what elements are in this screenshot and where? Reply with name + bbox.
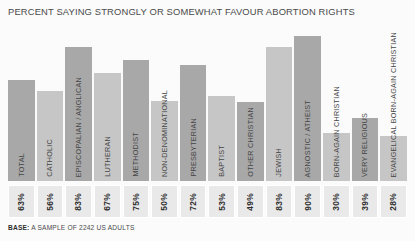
- bar-value-text: 83%: [74, 193, 82, 211]
- bar-value-box: 67%: [94, 185, 121, 218]
- bar[interactable]: [237, 102, 264, 181]
- bar-value-text: 53%: [218, 193, 226, 211]
- bar[interactable]: [123, 60, 150, 181]
- bar-column[interactable]: BAPTIST: [208, 20, 235, 181]
- bar[interactable]: [294, 36, 321, 181]
- bar-column[interactable]: NON-DENOMINATIONAL: [151, 20, 178, 181]
- bar-column[interactable]: TOTAL: [8, 20, 35, 181]
- bar-column[interactable]: EPISCOPALIAN / ANGLICAN: [65, 20, 92, 181]
- bar-value-box: 90%: [294, 185, 321, 218]
- bar-value-box: 63%: [8, 185, 35, 218]
- bar-column[interactable]: JEWISH: [266, 20, 293, 181]
- bar[interactable]: [37, 91, 64, 181]
- bar-value-box: 83%: [65, 185, 92, 218]
- bar[interactable]: [94, 73, 121, 181]
- bar-value-box: 56%: [37, 185, 64, 218]
- bar-column[interactable]: LUTHERAN: [94, 20, 121, 181]
- bar-value-text: 83%: [275, 193, 283, 211]
- bar-value-text: 50%: [160, 193, 168, 211]
- bar-value-box: 75%: [123, 185, 150, 218]
- bar[interactable]: [208, 96, 235, 181]
- bar-column[interactable]: EVANGELICAL BORN-AGAIN CHRISTIAN: [380, 20, 407, 181]
- bar-value-box: 49%: [237, 185, 264, 218]
- bar-value-text: 75%: [132, 193, 140, 211]
- bar[interactable]: [323, 133, 350, 181]
- bar-column[interactable]: PRESBYTERIAN: [180, 20, 207, 181]
- bar-value-text: 30%: [332, 193, 340, 211]
- base-label: BASE:: [8, 224, 30, 231]
- abortion-rights-bar-chart: PERCENT SAYING STRONGLY OR SOMEWHAT FAVO…: [0, 0, 415, 241]
- base-text: A SAMPLE OF 2242 US ADULTS: [30, 224, 135, 231]
- bar[interactable]: [180, 65, 207, 181]
- bar-column[interactable]: OTHER CHRISTIAN: [237, 20, 264, 181]
- bar[interactable]: [352, 118, 379, 181]
- value-label-row: 63%56%83%67%75%50%72%53%49%83%90%30%39%2…: [8, 185, 407, 218]
- bar[interactable]: [65, 47, 92, 181]
- bar[interactable]: [266, 47, 293, 181]
- bar-column[interactable]: AGNOSTIC / ATHEIST: [294, 20, 321, 181]
- bar-value-box: 28%: [380, 185, 407, 218]
- bar-column[interactable]: VERY RELIGIOUS: [352, 20, 379, 181]
- bar-value-box: 50%: [151, 185, 178, 218]
- bar-column[interactable]: METHODIST: [123, 20, 150, 181]
- bar[interactable]: [8, 80, 35, 181]
- bar-column[interactable]: CATHOLIC: [37, 20, 64, 181]
- bar-column[interactable]: BORN-AGAIN CHRISTIAN: [323, 20, 350, 181]
- bar-value-text: 67%: [103, 193, 111, 211]
- bar-value-box: 39%: [352, 185, 379, 218]
- bar-value-text: 28%: [389, 193, 397, 211]
- bar-value-box: 72%: [180, 185, 207, 218]
- bar-value-text: 39%: [361, 193, 369, 211]
- bar-value-text: 90%: [304, 193, 312, 211]
- bar-value-box: 83%: [266, 185, 293, 218]
- bar-value-box: 53%: [208, 185, 235, 218]
- chart-footnote: BASE: A SAMPLE OF 2242 US ADULTS: [8, 224, 134, 231]
- bar-value-text: 72%: [189, 193, 197, 211]
- chart-title: PERCENT SAYING STRONGLY OR SOMEWHAT FAVO…: [8, 6, 355, 17]
- bar-value-box: 30%: [323, 185, 350, 218]
- bar-value-text: 49%: [246, 193, 254, 211]
- chart-plot-area: TOTALCATHOLICEPISCOPALIAN / ANGLICANLUTH…: [8, 20, 407, 181]
- bar[interactable]: [151, 101, 178, 182]
- bar-value-text: 63%: [17, 193, 25, 211]
- bar-value-text: 56%: [46, 193, 54, 211]
- bar[interactable]: [380, 136, 407, 181]
